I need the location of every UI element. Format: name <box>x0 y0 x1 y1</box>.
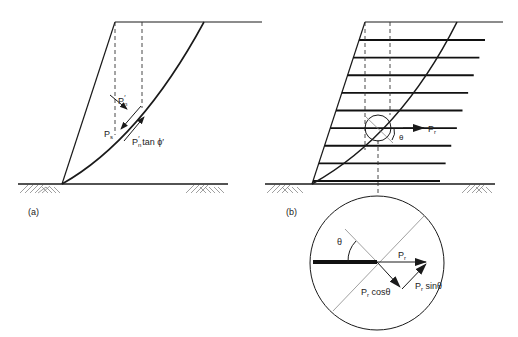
angle-arc-detail <box>348 241 356 262</box>
angle-arc-b <box>392 128 395 140</box>
reinforcement-force-label: Pr <box>428 124 436 135</box>
slip-surface-a <box>62 22 204 184</box>
slope-face-b <box>312 22 365 184</box>
panel-a-label: (a) <box>28 207 39 217</box>
shear-force-arrow <box>121 106 141 129</box>
cos-component-label: Pr cosθ <box>361 287 391 298</box>
ground-hatch-b-left <box>267 185 303 193</box>
cos-component-arrow <box>377 262 400 287</box>
normal-line-detail <box>345 229 377 262</box>
shear-force-label: Ps <box>104 129 113 140</box>
force-label-detail: Pr <box>398 250 406 261</box>
slip-surface-b <box>312 22 457 184</box>
sin-component-label: Pr sinθ <box>415 281 442 292</box>
resistance-label: Pn′ tan ϕ′ <box>132 135 164 148</box>
panel-a: Pn′ Ps Pn′ tan ϕ′ (a) <box>18 22 262 217</box>
ground-hatch-a-left <box>20 185 60 193</box>
panel-b-label: (b) <box>286 207 297 217</box>
panel-b: θ Pr (b) <box>265 22 503 217</box>
slope-face-a <box>62 22 115 184</box>
angle-label-b: θ <box>399 133 404 142</box>
detail-view: θ Pr Pr cosθ Pr sinθ <box>310 196 444 330</box>
ground-hatch-b-right <box>462 185 492 193</box>
reinforced-slope-figure: Pn′ Ps Pn′ tan ϕ′ (a) θ Pr ( <box>0 0 518 337</box>
ground-hatch-a-right <box>186 185 224 193</box>
normal-force-label: Pn′ <box>118 94 127 107</box>
angle-label-detail: θ <box>337 237 342 247</box>
